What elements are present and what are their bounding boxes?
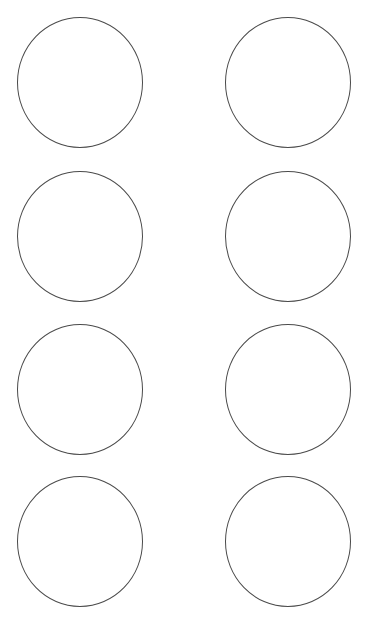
circle-r2-c2 [225,171,351,302]
circle-r1-c2 [225,17,351,148]
circle-r4-c2 [225,476,351,607]
circle-r3-c1 [17,324,143,455]
circle-r3-c2 [225,324,351,455]
circle-r1-c1 [17,17,143,148]
circle-r4-c1 [17,476,143,607]
circle-template-sheet [0,0,371,632]
circle-r2-c1 [17,171,143,302]
